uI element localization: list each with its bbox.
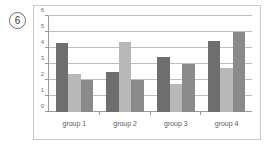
x-axis-category-label: group 1 [49, 120, 100, 127]
bar-group: group 1 [49, 16, 100, 112]
bar[interactable] [182, 64, 195, 112]
x-tick-mark [200, 112, 201, 115]
bar[interactable] [220, 68, 233, 112]
x-axis-category-label: group 4 [201, 120, 252, 127]
y-tick-label: 1 [41, 87, 44, 93]
x-axis-category-label: group 2 [100, 120, 151, 127]
bar[interactable] [68, 74, 81, 112]
bar[interactable] [119, 42, 132, 112]
y-tick-label: 0 [41, 103, 44, 109]
bar-group-bars [208, 16, 246, 112]
bar[interactable] [106, 72, 119, 112]
bar-groups: group 1group 2group 3group 4 [49, 16, 252, 112]
bar-group: group 4 [201, 16, 252, 112]
bar-group-bars [106, 16, 144, 112]
bar[interactable] [208, 41, 221, 112]
y-tick-label: 5 [41, 23, 44, 29]
figure-number-label: 6 [15, 16, 21, 26]
bar[interactable] [56, 43, 69, 112]
bar-group-bars [56, 16, 94, 112]
y-tick-label: 4 [41, 39, 44, 45]
bar[interactable] [131, 80, 144, 112]
bar[interactable] [170, 84, 183, 112]
bar-group: group 2 [100, 16, 151, 112]
x-tick-mark [150, 112, 151, 115]
y-tick-label: 3 [41, 55, 44, 61]
bar[interactable] [81, 80, 94, 112]
x-tick-mark [99, 112, 100, 115]
bar[interactable] [233, 32, 246, 112]
bar-group: group 3 [151, 16, 202, 112]
chart-frame: 0123456 group 1group 2group 3group 4 [33, 5, 261, 140]
plot-area: 0123456 group 1group 2group 3group 4 [48, 16, 252, 112]
figure-container: 6 0123456 group 1group 2group 3group 4 [0, 0, 265, 145]
x-axis-category-label: group 3 [151, 120, 202, 127]
figure-number-marker: 6 [9, 12, 26, 29]
y-tick-label: 6 [41, 7, 44, 13]
bar-group-bars [157, 16, 195, 112]
y-tick-label: 2 [41, 71, 44, 77]
bar[interactable] [157, 57, 170, 112]
